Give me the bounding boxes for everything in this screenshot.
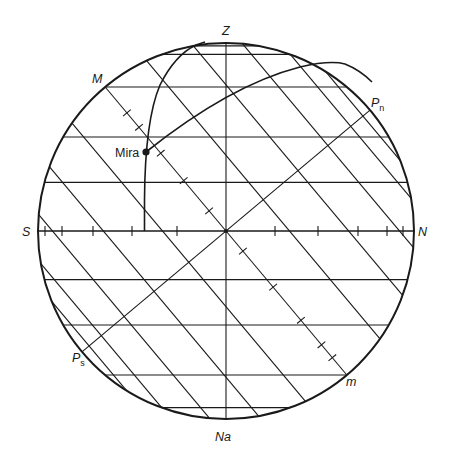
mira-label: Mira: [115, 146, 139, 160]
mira-hour-circle: [146, 63, 372, 152]
meridian-upper-label: M: [92, 72, 103, 86]
equator-tick: [157, 150, 165, 156]
north-pole-label: Pn: [371, 96, 384, 113]
declination-parallel-line: [49, 167, 258, 416]
nadir-label: Na: [215, 430, 231, 444]
equator-tick: [123, 110, 131, 116]
declination-parallel-line: [41, 264, 162, 408]
south-label: S: [22, 225, 31, 239]
declination-parallel-line: [326, 72, 401, 161]
declination-parallel-line: [290, 54, 411, 198]
declination-parallel-line: [72, 123, 305, 401]
equator-tick: [239, 248, 247, 254]
north-label: N: [418, 225, 428, 239]
declination-parallel-line: [193, 46, 402, 295]
observer-center-dot: [224, 229, 228, 233]
meridian-lower-label: m: [346, 375, 356, 389]
mira-star-marker: [142, 148, 149, 155]
equator-tick: [297, 317, 305, 323]
equator-tick: [135, 124, 143, 130]
declination-parallel-line: [52, 301, 127, 390]
equator-tick: [205, 208, 213, 214]
equator-tick: [318, 342, 326, 348]
equator-tick: [269, 284, 277, 290]
tick-marks: [45, 110, 403, 361]
equator-tick: [329, 355, 337, 361]
celestial-sphere-diagram: Z Na S N M m Pn Ps Mira: [0, 0, 453, 461]
zenith-label: Z: [221, 24, 230, 38]
declination-parallel-line: [147, 61, 380, 339]
